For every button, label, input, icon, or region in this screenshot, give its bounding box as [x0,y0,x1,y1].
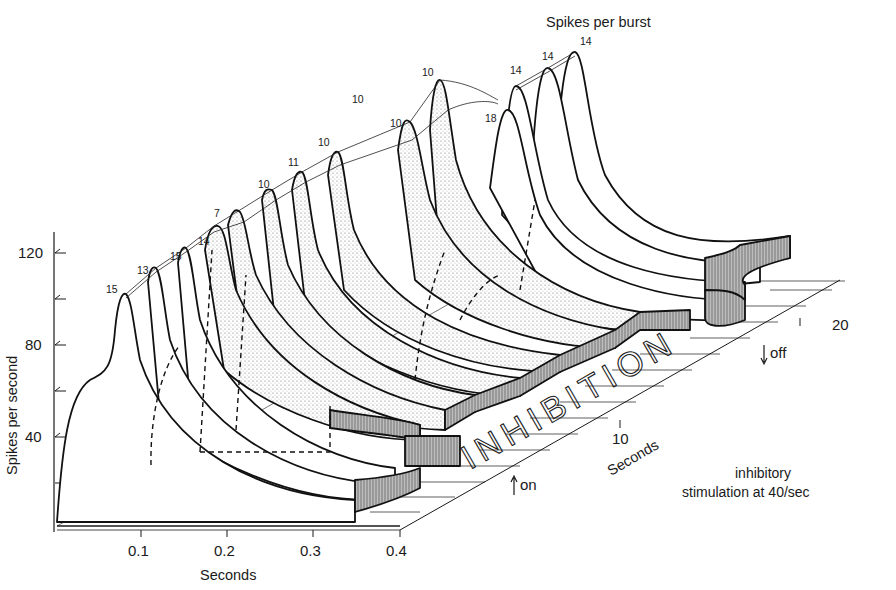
annotation-line-2: stimulation at 40/sec [682,484,810,500]
burst-count-14: 14 [542,50,554,62]
burst-count-8: 10 [318,136,330,148]
off-marker: off [761,344,787,364]
depth-tick-20: 20 [832,316,849,333]
y-tick-120: 120 [18,244,43,261]
burst-count-13: 14 [510,64,522,76]
x-tick-0.4: 0.4 [386,542,407,559]
x-tick-0.1: 0.1 [128,542,149,559]
burst-count-12: 18 [485,112,497,124]
burst-count-5: 7 [214,207,220,219]
off-label: off [770,344,787,361]
burst-count-2: 13 [137,264,149,276]
y-tick-40: 40 [25,428,42,445]
up-arrow-icon [511,476,517,495]
y-axis-title: Spikes per second [4,356,20,475]
waterfall-figure: 120 80 40 Spikes per second 0.1 0.2 0.3 … [0,0,896,590]
burst-title: Spikes per burst [546,14,651,30]
x-tick-0.2: 0.2 [214,542,235,559]
burst-count-1: 15 [106,283,118,295]
x-axis-title: Seconds [200,567,256,583]
on-marker: on [511,476,537,495]
burst-count-10: 10 [390,117,402,129]
burst-count-4: 14 [198,235,210,247]
x-axis [141,530,400,537]
burst-count-6: 10 [258,178,270,190]
y-tick-80: 80 [25,336,42,353]
down-arrow-icon [761,345,767,364]
x-tick-0.3: 0.3 [300,542,321,559]
annotation-line-1: inhibitory [735,465,791,481]
burst-traces [57,52,790,522]
burst-count-11: 10 [422,66,434,78]
burst-count-7: 11 [288,156,299,168]
burst-count-9: 10 [352,93,364,105]
depth-tick-10: 10 [612,430,629,447]
on-label: on [520,476,537,493]
burst-count-15: 14 [580,35,592,47]
burst-count-3: 15 [170,250,182,262]
